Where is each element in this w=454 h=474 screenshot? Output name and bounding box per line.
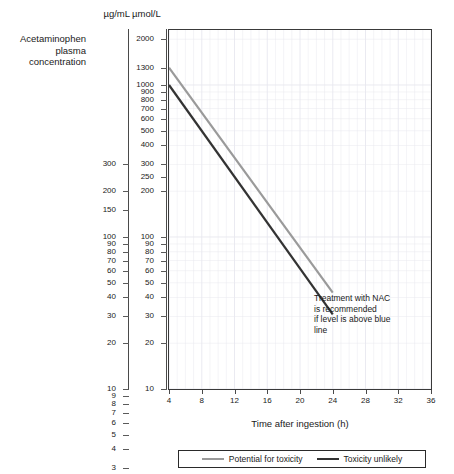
x-axis-tick-mark — [366, 390, 367, 394]
x-axis-tick-mark — [300, 390, 301, 394]
legend-entry-1: Toxicity unlikely — [317, 454, 403, 464]
chart-legend: Potential for toxicityToxicity unlikely — [178, 450, 426, 468]
legend-entry-0: Potential for toxicity — [202, 454, 303, 464]
x-axis-tick-mark — [169, 390, 170, 394]
x-axis-tick-mark — [202, 390, 203, 394]
x-axis-tick-mark — [333, 390, 334, 394]
x-axis-tick-label: 36 — [419, 396, 443, 405]
legend-swatch-1 — [317, 458, 339, 461]
x-axis-tick-label: 8 — [190, 396, 214, 405]
x-axis-tick-label: 32 — [386, 396, 410, 405]
x-axis-tick-label: 20 — [288, 396, 312, 405]
legend-swatch-0 — [202, 458, 224, 461]
x-axis-tick-mark — [235, 390, 236, 394]
x-axis-ticks: 4812162024283236 — [0, 0, 454, 474]
legend-label-0: Potential for toxicity — [229, 454, 303, 464]
x-axis-tick-label: 16 — [255, 396, 279, 405]
x-axis-tick-label: 24 — [321, 396, 345, 405]
legend-label-1: Toxicity unlikely — [344, 454, 403, 464]
x-axis-tick-label: 12 — [223, 396, 247, 405]
x-axis-tick-label: 4 — [157, 396, 181, 405]
x-axis-tick-label: 28 — [354, 396, 378, 405]
nomogram-figure: µg/mL µmol/L Acetaminophenplasmaconcentr… — [0, 0, 454, 474]
x-axis-tick-mark — [431, 390, 432, 394]
x-axis-tick-mark — [267, 390, 268, 394]
x-axis-tick-mark — [398, 390, 399, 394]
x-axis-title: Time after ingestion (h) — [168, 418, 432, 429]
